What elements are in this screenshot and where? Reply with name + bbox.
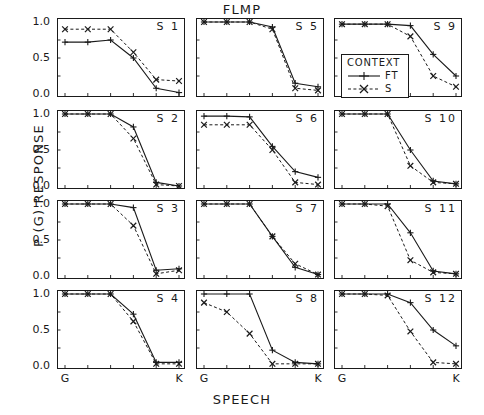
panel-label-subject-8: S 8: [296, 292, 319, 305]
y-tick-label: 0.0: [18, 269, 50, 282]
series-line-ft: [65, 40, 179, 93]
panel-label-subject-4: S 4: [157, 292, 180, 305]
panel-subject-3: S 3: [57, 200, 185, 279]
x-tick-label: G: [57, 372, 73, 385]
panel-label-subject-2: S 2: [157, 112, 180, 125]
panel-label-subject-12: S 12: [425, 292, 457, 305]
y-tick-label: 0.5: [18, 323, 50, 336]
series-markers-s: [62, 26, 182, 84]
y-tick-label: 0.0: [18, 179, 50, 192]
panel-subject-1: S 1: [57, 18, 185, 97]
legend: CONTEXT FT S: [341, 54, 409, 98]
y-tick-label: 0.5: [18, 143, 50, 156]
legend-swatch-ft: [347, 71, 381, 81]
legend-swatch-s: [347, 84, 381, 94]
legend-entry-ft: FT: [347, 70, 398, 81]
x-tick-label: G: [196, 372, 212, 385]
panel-label-subject-10: S 10: [425, 112, 457, 125]
flmp-figure: FLMP P (G) RESPONSE SPEECH S 1S 2S 3S 4S…: [0, 0, 484, 415]
panel-label-subject-3: S 3: [157, 202, 180, 215]
legend-label-s: S: [385, 83, 392, 94]
panel-subject-5: S 5: [196, 18, 324, 97]
y-tick-label: 1.0: [18, 287, 50, 300]
y-tick-label: 0.0: [18, 359, 50, 372]
panel-subject-4: S 4: [57, 290, 185, 369]
x-axis-title: SPEECH: [0, 392, 484, 407]
x-tick-label: K: [448, 372, 464, 385]
x-tick-label: G: [334, 372, 350, 385]
panel-subject-7: S 7: [196, 200, 324, 279]
y-tick-label: 0.5: [18, 51, 50, 64]
y-tick-label: 1.0: [18, 107, 50, 120]
panel-subject-6: S 6: [196, 110, 324, 189]
panel-label-subject-7: S 7: [296, 202, 319, 215]
panel-subject-12: S 12: [334, 290, 462, 369]
panel-subject-10: S 10: [334, 110, 462, 189]
y-tick-label: 0.5: [18, 233, 50, 246]
series-markers-ft: [62, 37, 182, 96]
legend-label-ft: FT: [385, 70, 398, 81]
series-markers-s: [201, 300, 321, 367]
series-line-s: [204, 303, 318, 364]
y-tick-label: 1.0: [18, 197, 50, 210]
panel-label-subject-9: S 9: [434, 20, 457, 33]
legend-title: CONTEXT: [347, 57, 400, 68]
y-tick-label: 1.0: [18, 15, 50, 28]
x-tick-label: K: [310, 372, 326, 385]
series-line-ft: [204, 116, 318, 177]
panel-subject-11: S 11: [334, 200, 462, 279]
panel-label-subject-6: S 6: [296, 112, 319, 125]
panel-subject-8: S 8: [196, 290, 324, 369]
panel-label-subject-1: S 1: [157, 20, 180, 33]
legend-entry-s: S: [347, 83, 392, 94]
x-tick-label: K: [171, 372, 187, 385]
series-line-s: [65, 29, 179, 81]
y-tick-label: 0.0: [18, 87, 50, 100]
figure-title: FLMP: [0, 2, 484, 17]
series-line-s: [204, 125, 318, 185]
panel-label-subject-11: S 11: [425, 202, 457, 215]
panel-subject-2: S 2: [57, 110, 185, 189]
panel-label-subject-5: S 5: [296, 20, 319, 33]
